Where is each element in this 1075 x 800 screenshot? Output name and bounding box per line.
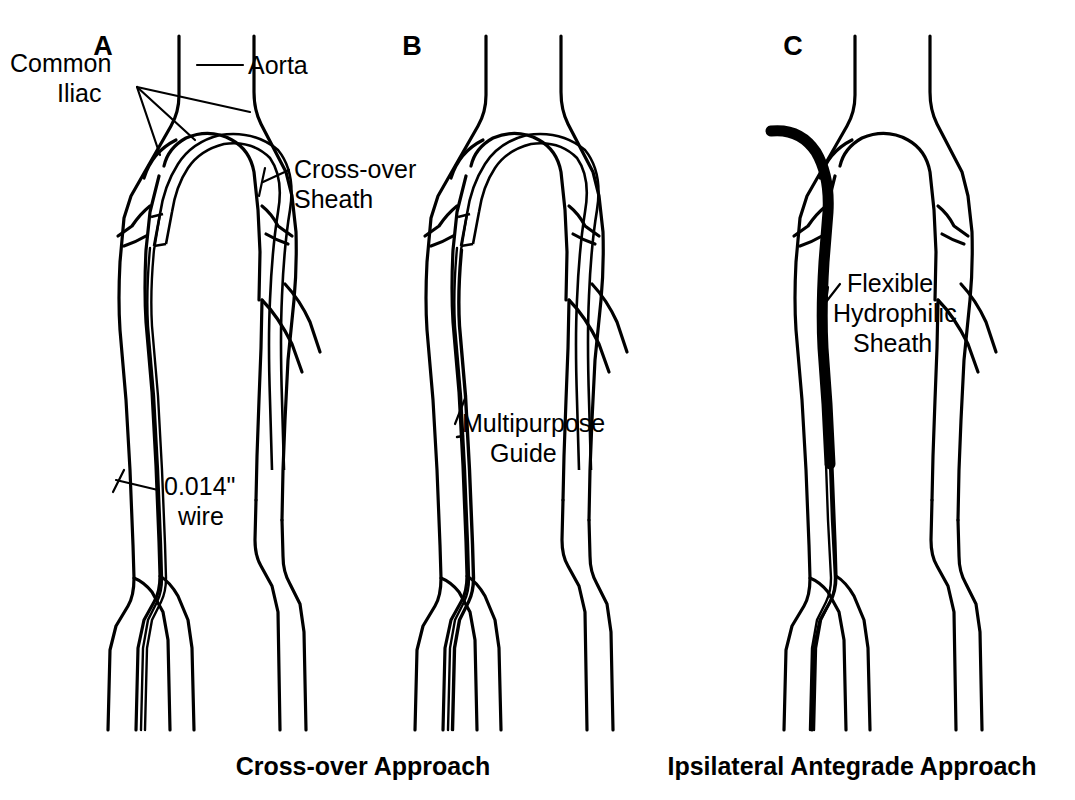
panel-b-vessel-outline bbox=[415, 36, 627, 730]
callout-flexible-sheath-line1: Flexible bbox=[847, 269, 933, 297]
callout-flexible-sheath-line3: Sheath bbox=[853, 329, 932, 357]
callout-common-iliac-line1: Common bbox=[10, 49, 111, 77]
callout-flexible-sheath-line2: Hydrophilic bbox=[833, 299, 957, 327]
panel-a: A Common Iliac Aorta Cross-over Sheath 0… bbox=[10, 31, 416, 730]
callout-crossover-sheath-line1: Cross-over bbox=[294, 155, 416, 183]
caption-ipsilateral-antegrade-approach: Ipsilateral Antegrade Approach bbox=[667, 752, 1036, 780]
callout-multipurpose-guide-line2: Guide bbox=[490, 439, 557, 467]
figure-captions: Cross-over Approach Ipsilateral Antegrad… bbox=[236, 752, 1037, 780]
panel-letter-b: B bbox=[402, 31, 422, 61]
callout-crossover-sheath-line2: Sheath bbox=[294, 185, 373, 213]
vascular-access-figure: A Common Iliac Aorta Cross-over Sheath 0… bbox=[0, 0, 1075, 800]
callout-common-iliac-line2: Iliac bbox=[57, 79, 101, 107]
panel-b: B Multipurpose Guide bbox=[402, 31, 627, 730]
panel-a-vessel-outline bbox=[108, 36, 320, 730]
panel-c-flexible-hydrophilic-sheath bbox=[771, 131, 830, 464]
callout-aorta: Aorta bbox=[248, 51, 308, 79]
panel-c: C Flexible Hydrophilic Sheath bbox=[771, 31, 996, 730]
callout-wire-line2: wire bbox=[177, 502, 224, 530]
panel-a-crossover-sheath bbox=[151, 134, 292, 470]
caption-cross-over-approach: Cross-over Approach bbox=[236, 752, 491, 780]
callout-multipurpose-guide-line1: Multipurpose bbox=[462, 409, 605, 437]
callout-wire-line1: 0.014" bbox=[164, 472, 235, 500]
panel-letter-c: C bbox=[783, 31, 803, 61]
